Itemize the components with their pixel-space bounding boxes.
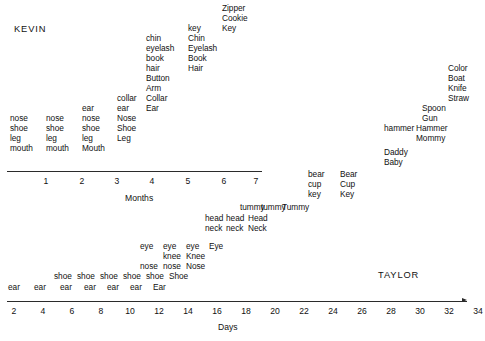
days-axis-tick: 16 (208, 306, 226, 316)
word-token: Eye (209, 242, 223, 252)
word-token: Straw (448, 94, 469, 104)
subject-label-taylor: TAYLOR (378, 270, 419, 280)
months-axis-tick: 5 (179, 176, 197, 186)
days-axis-tick: 20 (266, 306, 284, 316)
word-token: eye (140, 242, 153, 252)
word-token: Neck (248, 224, 267, 234)
word-token: shoe (123, 272, 141, 282)
word-token: Hair (188, 64, 203, 74)
word-token: Ear (153, 283, 166, 293)
word-token: shoe (100, 272, 118, 282)
word-token: neck (205, 224, 222, 234)
word-token: shoe (77, 272, 95, 282)
word-token: Key (340, 190, 354, 200)
word-token: mouth (10, 144, 33, 154)
word-token: Mommy (416, 134, 445, 144)
word-token: Shoe (169, 272, 188, 282)
word-token: neck (226, 224, 243, 234)
days-axis-tick: 34 (469, 306, 485, 316)
word-token: mouth (46, 144, 69, 154)
days-axis-tick: 14 (179, 306, 197, 316)
word-token: Mouth (82, 144, 105, 154)
days-axis-tick: 4 (34, 306, 52, 316)
word-token: Baby (384, 158, 403, 168)
months-axis-tick: 4 (143, 176, 161, 186)
days-axis-arrowhead (462, 298, 467, 302)
months-axis-tick: 3 (108, 176, 126, 186)
word-token: ear (130, 283, 142, 293)
word-token: shoe (54, 272, 72, 282)
months-axis-title: Months (125, 193, 153, 203)
word-token: Nose (186, 262, 205, 272)
days-axis-tick: 22 (295, 306, 313, 316)
word-token: Key (222, 24, 236, 34)
months-axis-tick: 7 (247, 176, 265, 186)
days-axis-tick: 26 (353, 306, 371, 316)
days-axis-tick: 18 (237, 306, 255, 316)
days-axis-tick: 28 (382, 306, 400, 316)
days-axis-title: Days (218, 322, 238, 332)
word-token: Leg (117, 134, 131, 144)
word-token: ear (8, 283, 20, 293)
word-token: Ear (146, 104, 159, 114)
subject-label-kevin: KEVIN (14, 24, 46, 34)
word-token: ear (34, 283, 46, 293)
days-axis-tick: 8 (92, 306, 110, 316)
word-token: shoe (146, 272, 164, 282)
months-axis-tick: 1 (37, 176, 55, 186)
word-token: ear (60, 283, 72, 293)
figure-canvas: KEVINTAYLOR1234567Months2468101214161820… (0, 0, 485, 341)
days-axis-tick: 6 (63, 306, 81, 316)
word-token: ear (107, 283, 119, 293)
days-axis-tick: 32 (440, 306, 458, 316)
word-token: key (308, 190, 321, 200)
days-axis-tick: 2 (5, 306, 23, 316)
days-axis-tick: 10 (121, 306, 139, 316)
days-axis-tick: 24 (324, 306, 342, 316)
days-axis-line (7, 301, 467, 302)
months-axis-tick: 6 (215, 176, 233, 186)
months-axis-line (7, 171, 262, 172)
word-token: hammer (384, 124, 414, 134)
months-axis-tick: 2 (73, 176, 91, 186)
word-token: ear (84, 283, 96, 293)
days-axis-tick: 12 (150, 306, 168, 316)
word-token: Tummy (282, 203, 309, 213)
days-axis-tick: 30 (411, 306, 429, 316)
